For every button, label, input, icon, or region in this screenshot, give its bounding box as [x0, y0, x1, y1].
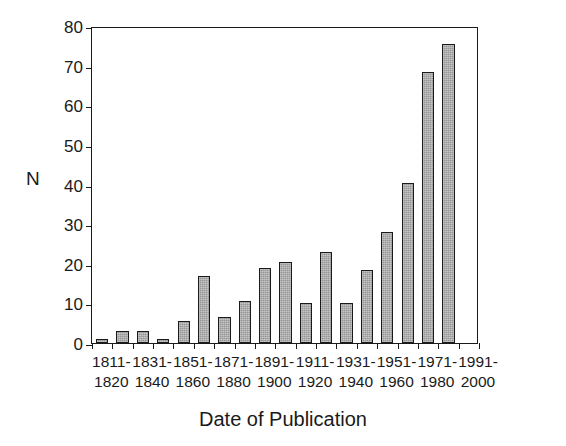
x-tick-mark	[255, 343, 256, 349]
y-tick-label: 10	[64, 295, 83, 315]
y-tick-label: 80	[64, 18, 83, 38]
x-tick-label-line1: 1831-	[132, 352, 172, 372]
bar	[157, 339, 169, 343]
x-tick-mark	[194, 343, 195, 349]
bar	[198, 276, 210, 343]
x-tick-label-line1: 1951-	[377, 352, 417, 372]
bar	[259, 268, 271, 343]
y-tick-label: 70	[64, 58, 83, 78]
x-tick-label: 1811-1820	[92, 352, 131, 392]
y-tick-mark	[86, 28, 92, 29]
x-tick-label: 1891-1900	[254, 352, 294, 392]
bar	[422, 72, 434, 343]
x-tick-mark	[377, 343, 378, 349]
bar	[178, 321, 190, 343]
y-tick-mark	[86, 187, 92, 188]
x-tick-label-line2: 2000	[458, 372, 498, 392]
y-tick-mark	[86, 147, 92, 148]
x-tick-label: 1991-2000	[458, 352, 498, 392]
x-tick-mark	[153, 343, 154, 349]
bar	[361, 270, 373, 343]
plot-area: 01020304050607080	[91, 27, 478, 344]
x-tick-mark	[316, 343, 317, 349]
y-tick-label: 0	[74, 335, 83, 355]
y-tick-label: 20	[64, 256, 83, 276]
x-tick-label-line2: 1900	[254, 372, 294, 392]
y-tick-label: 30	[64, 216, 83, 236]
x-tick-label-line1: 1811-	[92, 352, 131, 372]
y-tick-label: 50	[64, 137, 83, 157]
x-tick-mark	[296, 343, 297, 349]
x-tick-label-line2: 1860	[173, 372, 213, 392]
x-axis-title: Date of Publication	[0, 408, 566, 431]
x-tick-label: 1911-1920	[296, 352, 335, 392]
bar	[96, 339, 108, 343]
y-tick-mark	[86, 226, 92, 227]
x-tick-label-line2: 1820	[92, 372, 131, 392]
bar	[300, 303, 312, 343]
x-tick-mark	[214, 343, 215, 349]
bar	[340, 303, 352, 343]
x-tick-label-line1: 1911-	[296, 352, 335, 372]
y-tick-mark	[86, 305, 92, 306]
x-tick-mark	[275, 343, 276, 349]
x-axis-tick-labels: 1811-18201831-18401851-18601871-18801891…	[91, 352, 478, 398]
x-tick-mark	[336, 343, 337, 349]
bar	[239, 301, 251, 343]
x-tick-label: 1931-1940	[336, 352, 376, 392]
x-tick-label-line1: 1851-	[173, 352, 213, 372]
bar	[279, 262, 291, 343]
x-tick-mark	[133, 343, 134, 349]
x-tick-label-line1: 1971-	[417, 352, 457, 372]
x-tick-mark	[92, 343, 93, 349]
x-tick-label: 1831-1840	[132, 352, 172, 392]
y-tick-label: 60	[64, 97, 83, 117]
bar	[381, 232, 393, 343]
x-tick-label-line2: 1940	[336, 372, 376, 392]
x-tick-label-line1: 1931-	[336, 352, 376, 372]
y-tick-mark	[86, 68, 92, 69]
x-tick-label-line1: 1991-	[458, 352, 498, 372]
x-tick-label-line2: 1920	[296, 372, 335, 392]
x-tick-label: 1851-1860	[173, 352, 213, 392]
x-tick-label: 1951-1960	[377, 352, 417, 392]
x-tick-label-line2: 1960	[377, 372, 417, 392]
x-tick-label: 1971-1980	[417, 352, 457, 392]
x-tick-mark	[112, 343, 113, 349]
x-tick-mark	[235, 343, 236, 349]
bar-chart-figure: N 01020304050607080 1811-18201831-184018…	[0, 0, 566, 446]
y-tick-mark	[86, 107, 92, 108]
x-tick-label-line1: 1891-	[254, 352, 294, 372]
x-tick-mark	[459, 343, 460, 349]
x-tick-label-line2: 1840	[132, 372, 172, 392]
x-tick-mark	[357, 343, 358, 349]
x-tick-label-line2: 1880	[214, 372, 254, 392]
bar	[218, 317, 230, 343]
x-tick-mark	[173, 343, 174, 349]
bar	[320, 252, 332, 343]
y-axis-title: N	[26, 168, 40, 190]
x-tick-mark	[438, 343, 439, 349]
bar	[116, 331, 128, 343]
y-tick-mark	[86, 266, 92, 267]
x-tick-mark	[418, 343, 419, 349]
x-tick-mark	[398, 343, 399, 349]
x-tick-mark	[479, 343, 480, 349]
bar	[402, 183, 414, 343]
bar	[442, 44, 454, 343]
x-tick-label-line1: 1871-	[214, 352, 254, 372]
bar	[137, 331, 149, 343]
x-tick-label-line2: 1980	[417, 372, 457, 392]
x-tick-label: 1871-1880	[214, 352, 254, 392]
y-tick-label: 40	[64, 177, 83, 197]
